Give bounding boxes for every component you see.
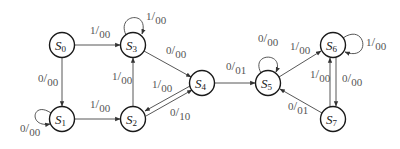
label-s0-s1: 0/00 (38, 70, 59, 88)
label-s7-s5: 0/01 (288, 98, 308, 116)
label-s2-s3: 1/00 (112, 68, 133, 86)
label-s5-s6: 1/00 (290, 38, 311, 56)
label-s1-loop: 0/00 (20, 120, 41, 138)
label-s3-loop: 1/00 (146, 8, 167, 26)
state-s1: S1 (50, 107, 75, 132)
label-s2-s4: 0/10 (170, 104, 191, 122)
diagram-svg: S0 S1 S2 S3 S4 S5 S6 S7 1/00 0/00 0/00 1… (0, 0, 400, 149)
label-s7-s6: 1/00 (310, 66, 331, 84)
label-s6-s7: 0/00 (342, 70, 363, 88)
state-s2: S2 (121, 107, 146, 132)
label-s4-s5: 0/01 (226, 58, 246, 76)
label-s1-s2: 1/00 (90, 96, 111, 114)
edge-s1-loop (35, 110, 51, 125)
state-s7: S7 (321, 107, 346, 132)
state-s4: S4 (190, 71, 215, 96)
label-s4-s2: 1/00 (152, 76, 173, 94)
label-s5-loop: 0/00 (258, 30, 279, 48)
label-s3-s4: 0/00 (166, 42, 187, 60)
state-s3: S3 (121, 33, 146, 58)
state-s0: S0 (50, 33, 75, 58)
state-s5: S5 (256, 71, 281, 96)
label-s0-s3: 1/00 (90, 22, 111, 40)
state-s6: S6 (321, 33, 346, 58)
state-diagram: S0 S1 S2 S3 S4 S5 S6 S7 1/00 0/00 0/00 1… (0, 0, 400, 149)
label-s6-loop: 1/00 (366, 34, 387, 52)
